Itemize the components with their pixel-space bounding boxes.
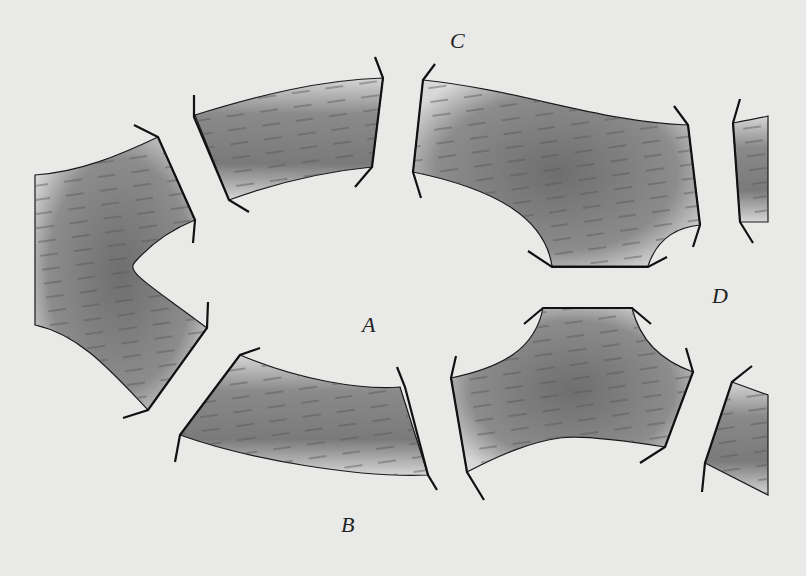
segment-bottom-right <box>702 366 768 495</box>
label-c: C <box>450 28 465 54</box>
segment-top-left <box>194 57 383 212</box>
label-b: B <box>341 512 354 538</box>
segment-top-center <box>413 64 700 267</box>
segment-bottom-left <box>175 348 437 490</box>
diagram-canvas <box>0 0 806 576</box>
label-d: D <box>712 283 728 309</box>
label-a: A <box>362 312 375 338</box>
segment-left-junction <box>35 125 208 418</box>
segment-top-right <box>733 99 768 243</box>
segment-bottom-center <box>451 308 693 500</box>
